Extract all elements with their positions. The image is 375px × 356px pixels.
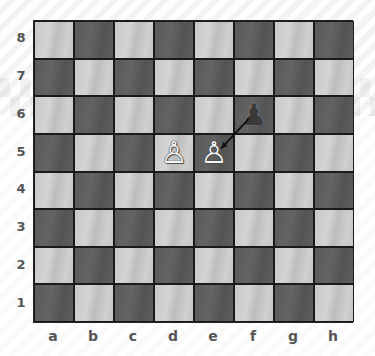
square-g2[interactable] <box>274 247 314 285</box>
square-e6[interactable] <box>194 96 234 134</box>
square-g5[interactable] <box>274 134 314 172</box>
white-pawn-d5[interactable]: ♙ <box>161 138 188 168</box>
square-d4[interactable] <box>154 172 194 210</box>
file-label-b: b <box>73 328 113 344</box>
rank-label-6: 6 <box>14 106 28 121</box>
rank-label-1: 1 <box>14 295 28 310</box>
square-g4[interactable] <box>274 172 314 210</box>
rank-label-4: 4 <box>14 181 28 196</box>
square-c1[interactable] <box>114 284 154 322</box>
square-b3[interactable] <box>74 209 114 247</box>
file-label-g: g <box>273 328 313 344</box>
square-c7[interactable] <box>114 59 154 97</box>
square-d6[interactable] <box>154 96 194 134</box>
square-f5[interactable] <box>234 134 274 172</box>
square-b6[interactable] <box>74 96 114 134</box>
square-d2[interactable] <box>154 247 194 285</box>
square-d1[interactable] <box>154 284 194 322</box>
square-c4[interactable] <box>114 172 154 210</box>
square-f1[interactable] <box>234 284 274 322</box>
square-b5[interactable] <box>74 134 114 172</box>
file-label-d: d <box>153 328 193 344</box>
square-d3[interactable] <box>154 209 194 247</box>
square-e1[interactable] <box>194 284 234 322</box>
square-c2[interactable] <box>114 247 154 285</box>
square-d5[interactable]: ♙ <box>154 134 194 172</box>
square-c5[interactable] <box>114 134 154 172</box>
rank-label-7: 7 <box>14 68 28 83</box>
file-label-e: e <box>193 328 233 344</box>
square-a7[interactable] <box>34 59 74 97</box>
square-h1[interactable] <box>314 284 354 322</box>
square-d8[interactable] <box>154 21 194 59</box>
square-f6[interactable]: ♟ <box>234 96 274 134</box>
square-f8[interactable] <box>234 21 274 59</box>
file-label-a: a <box>33 328 73 344</box>
square-g3[interactable] <box>274 209 314 247</box>
square-b7[interactable] <box>74 59 114 97</box>
square-b1[interactable] <box>74 284 114 322</box>
rank-label-5: 5 <box>14 144 28 159</box>
square-c6[interactable] <box>114 96 154 134</box>
square-e7[interactable] <box>194 59 234 97</box>
white-pawn-e5[interactable]: ♙ <box>201 138 228 168</box>
square-g6[interactable] <box>274 96 314 134</box>
square-b2[interactable] <box>74 247 114 285</box>
square-e4[interactable] <box>194 172 234 210</box>
square-h6[interactable] <box>314 96 354 134</box>
file-label-f: f <box>233 328 273 344</box>
rank-label-2: 2 <box>14 257 28 272</box>
square-b8[interactable] <box>74 21 114 59</box>
square-e3[interactable] <box>194 209 234 247</box>
square-h7[interactable] <box>314 59 354 97</box>
square-a6[interactable] <box>34 96 74 134</box>
square-f7[interactable] <box>234 59 274 97</box>
square-g1[interactable] <box>274 284 314 322</box>
file-label-c: c <box>113 328 153 344</box>
black-pawn-f6[interactable]: ♟ <box>241 100 268 130</box>
square-h3[interactable] <box>314 209 354 247</box>
square-a5[interactable] <box>34 134 74 172</box>
square-e5[interactable]: ♙ <box>194 134 234 172</box>
square-f4[interactable] <box>234 172 274 210</box>
square-h4[interactable] <box>314 172 354 210</box>
square-d7[interactable] <box>154 59 194 97</box>
rank-label-3: 3 <box>14 219 28 234</box>
square-h2[interactable] <box>314 247 354 285</box>
square-a3[interactable] <box>34 209 74 247</box>
square-g8[interactable] <box>274 21 314 59</box>
square-a2[interactable] <box>34 247 74 285</box>
square-h5[interactable] <box>314 134 354 172</box>
square-a1[interactable] <box>34 284 74 322</box>
square-e8[interactable] <box>194 21 234 59</box>
square-f2[interactable] <box>234 247 274 285</box>
square-f3[interactable] <box>234 209 274 247</box>
square-c8[interactable] <box>114 21 154 59</box>
square-a8[interactable] <box>34 21 74 59</box>
square-e2[interactable] <box>194 247 234 285</box>
chess-board[interactable]: ♟♙♙ <box>33 20 353 323</box>
rank-label-8: 8 <box>14 30 28 45</box>
square-b4[interactable] <box>74 172 114 210</box>
square-c3[interactable] <box>114 209 154 247</box>
square-a4[interactable] <box>34 172 74 210</box>
square-h8[interactable] <box>314 21 354 59</box>
file-label-h: h <box>313 328 353 344</box>
square-g7[interactable] <box>274 59 314 97</box>
